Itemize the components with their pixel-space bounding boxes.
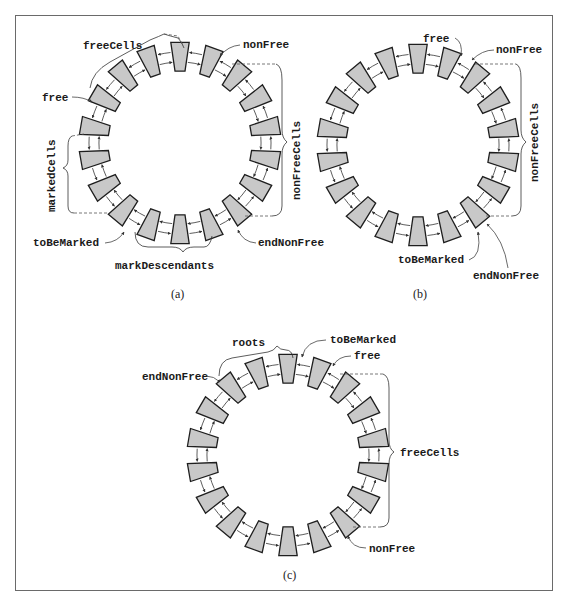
link-arrow [453, 212, 464, 218]
link-arrow [371, 480, 375, 492]
leader-free-c [333, 356, 351, 366]
link-arrow [268, 533, 281, 535]
link-arrow [246, 197, 254, 207]
heap-cell [409, 217, 427, 246]
caption-a: (a) [171, 287, 184, 301]
link-arrow [331, 108, 335, 120]
link-arrow [201, 480, 205, 492]
link-arrow [331, 170, 335, 182]
link-arrow [396, 233, 409, 235]
link-arrow [188, 62, 201, 64]
link-arrow [238, 86, 246, 96]
leader-endnonfree-b [487, 224, 508, 268]
link-arrow [160, 221, 173, 223]
link-arrow [190, 231, 203, 233]
heap-cell [250, 117, 281, 136]
brace-markedcells-a [63, 136, 74, 213]
leader-nonfree-c [348, 536, 366, 548]
garbage-collector-ring-diagram: freeCells free nonFree nonFreeCells mark… [0, 0, 569, 606]
link-arrow [458, 220, 469, 226]
link-arrow [215, 70, 226, 76]
link-arrow [266, 543, 279, 545]
link-arrow [354, 509, 362, 519]
link-arrow [158, 53, 171, 55]
heap-cell [187, 429, 218, 448]
caption-b: (b) [413, 287, 427, 301]
link-arrow [106, 197, 114, 207]
heap-cell [88, 85, 120, 112]
heap-cell [196, 397, 228, 424]
link-arrow [263, 168, 267, 180]
heap-cell [279, 354, 297, 383]
heap-cell [196, 487, 228, 514]
heap-cell [478, 87, 510, 114]
heap-cell [326, 87, 358, 114]
link-arrow [372, 72, 383, 78]
link-arrow [344, 199, 352, 209]
link-arrow [220, 218, 231, 224]
label-nonfreecells-a: nonFreeCells [291, 121, 303, 200]
link-arrow [453, 72, 464, 78]
link-arrow [372, 212, 383, 218]
label-endnonfree-c: endNonFree [142, 371, 208, 383]
link-arrow [398, 223, 411, 225]
heap-cell [187, 463, 218, 482]
label-markedcells-a: markedCells [46, 139, 58, 212]
link-arrow [242, 522, 253, 528]
link-arrow [102, 165, 106, 177]
label-tobemarked-b: toBeMarked [398, 254, 464, 266]
link-arrow [362, 421, 366, 433]
link-arrow [428, 55, 441, 57]
link-arrow [428, 233, 441, 235]
link-arrow [492, 111, 496, 123]
link-arrow [298, 365, 311, 367]
link-arrow [160, 62, 173, 64]
link-arrow [254, 109, 258, 121]
heap-cell [317, 153, 348, 172]
brace-freecells-c [380, 374, 394, 527]
link-arrow [352, 88, 360, 98]
link-arrow [158, 231, 171, 233]
heap-cell [409, 44, 427, 73]
link-arrow [237, 373, 248, 379]
link-arrow [210, 477, 214, 489]
link-arrow [214, 509, 222, 519]
heap-cell [488, 119, 519, 138]
link-arrow [222, 398, 230, 408]
link-arrow [352, 192, 360, 202]
link-arrow [134, 210, 145, 216]
heap-cell [279, 527, 297, 556]
leader-nonfree-b [472, 50, 494, 60]
link-arrow [323, 522, 334, 528]
link-arrow [476, 192, 484, 202]
link-arrow [190, 53, 203, 55]
link-arrow [484, 199, 492, 209]
link-arrow [268, 374, 281, 376]
link-arrow [396, 55, 409, 57]
label-nonfree-c: nonFree [369, 543, 416, 555]
link-arrow [188, 221, 201, 223]
link-arrow [501, 108, 505, 120]
label-nonfree-a: nonFree [243, 39, 290, 51]
link-arrow [222, 502, 230, 512]
link-arrow [492, 167, 496, 179]
ring-panel-c [187, 354, 388, 555]
link-arrow [114, 190, 122, 200]
link-arrow [476, 88, 484, 98]
label-freecells-c: freeCells [400, 447, 459, 459]
link-arrow [484, 82, 492, 92]
link-arrow [426, 64, 439, 66]
brace-nonfreecells-a [272, 64, 287, 216]
link-arrow [323, 382, 334, 388]
link-arrow [340, 167, 344, 179]
heap-cell [171, 42, 189, 71]
link-arrow [346, 398, 354, 408]
label-free-c: free [354, 350, 381, 362]
link-arrow [102, 109, 106, 121]
brace-nonfreecells-b [512, 64, 526, 216]
link-arrow [237, 530, 248, 536]
link-arrow [298, 543, 311, 545]
link-arrow [246, 80, 254, 90]
caption-c: (c) [283, 568, 296, 582]
link-arrow [296, 533, 309, 535]
